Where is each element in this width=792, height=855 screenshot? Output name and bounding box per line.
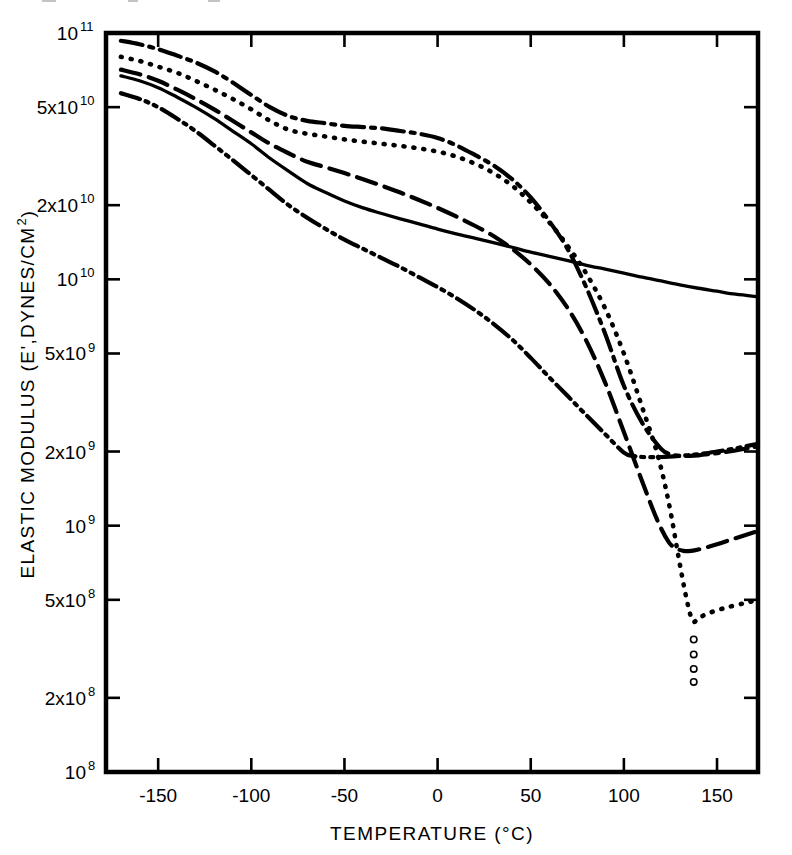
y-tick-label: 109 (65, 512, 95, 537)
x-tick-label: 0 (432, 785, 443, 806)
curve-dash-dot-dot (121, 93, 758, 457)
y-tick-label: 1011 (57, 19, 94, 44)
svg-text:10: 10 (80, 93, 94, 108)
axis-frame (106, 33, 758, 772)
svg-text:2x10: 2x10 (37, 195, 78, 216)
svg-text:9: 9 (88, 340, 95, 355)
y-axis-title: ELASTIC MODULUS (E',DYNES/CM2) (14, 210, 38, 579)
x-tick-label: -50 (331, 785, 358, 806)
markers-layer (691, 636, 697, 685)
svg-text:11: 11 (80, 19, 94, 34)
x-axis-title: TEMPERATURE (°C) (330, 823, 534, 844)
svg-text:9: 9 (88, 512, 95, 527)
y-tick-label: 5x108 (45, 586, 95, 611)
open-circle-points (691, 666, 697, 672)
y-tick-label: 2x1010 (37, 191, 95, 216)
curves-layer (121, 41, 758, 622)
svg-text:8: 8 (88, 684, 95, 699)
y-tick-label: 108 (65, 758, 95, 783)
y-tick-label: 5x109 (45, 340, 95, 365)
plot-frame (106, 33, 758, 772)
svg-text:ELASTIC MODULUS (E',DYNES/CM: ELASTIC MODULUS (E',DYNES/CM (17, 226, 38, 578)
svg-text:2x10: 2x10 (45, 442, 86, 463)
svg-text:5x10: 5x10 (45, 590, 86, 611)
x-tick-label: 50 (520, 785, 541, 806)
svg-text:9: 9 (88, 438, 95, 453)
x-tick-label: 150 (701, 785, 733, 806)
open-circle-points (691, 679, 697, 685)
svg-text:10: 10 (65, 762, 86, 783)
figure-container: -150-100-5005010015010115x10102x10101010… (0, 0, 792, 855)
svg-text:10: 10 (80, 265, 94, 280)
curve-dash-dot (121, 41, 758, 456)
svg-text:10: 10 (57, 269, 78, 290)
y-tick-label: 2x109 (45, 438, 95, 463)
x-tick-label: -100 (232, 785, 270, 806)
svg-text:5x10: 5x10 (37, 97, 78, 118)
y-tick-label: 1010 (57, 265, 95, 290)
axis-titles: TEMPERATURE (°C)ELASTIC MODULUS (E',DYNE… (14, 210, 534, 844)
svg-text:10: 10 (65, 516, 86, 537)
svg-text:2x10: 2x10 (45, 688, 86, 709)
open-circle-points (691, 651, 697, 657)
x-tick-label: 100 (608, 785, 640, 806)
svg-text:2: 2 (14, 218, 29, 225)
svg-text:8: 8 (88, 758, 95, 773)
y-tick-label: 2x108 (45, 684, 95, 709)
x-tick-label: -150 (139, 785, 177, 806)
y-tick-label: 5x1010 (37, 93, 95, 118)
axis-ticks (106, 33, 758, 772)
svg-text:10: 10 (57, 23, 78, 44)
svg-text:5x10: 5x10 (45, 343, 86, 364)
axis-tick-labels: -150-100-5005010015010115x10102x10101010… (37, 19, 733, 806)
open-circle-points (691, 636, 697, 642)
svg-text:10: 10 (80, 191, 94, 206)
curve-dotted (121, 57, 758, 622)
svg-text:): ) (17, 210, 38, 218)
svg-text:8: 8 (88, 586, 95, 601)
chart-plot-area: -150-100-5005010015010115x10102x10101010… (0, 0, 792, 855)
